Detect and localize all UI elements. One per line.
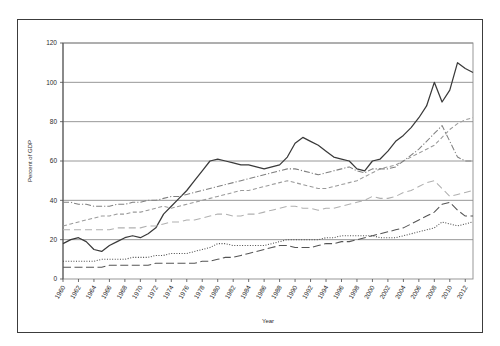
x-axis-tick-label: 1968 bbox=[115, 284, 128, 300]
x-axis-tick-label: 1962 bbox=[69, 284, 82, 300]
x-axis-tick-label: 1984 bbox=[239, 284, 252, 300]
x-axis-tick-label: 1978 bbox=[192, 284, 205, 300]
y-axis-tick-label: 100 bbox=[46, 79, 57, 86]
x-axis-tick-label: 1996 bbox=[332, 284, 345, 300]
y-axis-tick-label: 40 bbox=[50, 197, 58, 204]
chart-figure: 020406080100120Percent of GDP19601962196… bbox=[0, 0, 500, 346]
y-axis-tick-label: 60 bbox=[50, 157, 58, 164]
x-axis-tick-label: 1998 bbox=[347, 284, 360, 300]
y-axis-title: Percent of GDP bbox=[27, 140, 33, 182]
x-axis-tick-label: 2006 bbox=[409, 284, 422, 300]
x-axis-tick-label: 1970 bbox=[130, 284, 143, 300]
x-axis-tick-label: 2000 bbox=[363, 284, 376, 300]
x-axis-tick-label: 1960 bbox=[53, 284, 66, 300]
x-axis-tick-label: 2010 bbox=[440, 284, 453, 300]
x-axis-tick-label: 1964 bbox=[84, 284, 97, 300]
line-chart: 020406080100120Percent of GDP19601962196… bbox=[18, 20, 484, 334]
x-axis-tick-label: 1966 bbox=[99, 284, 112, 300]
x-axis-tick-label: 1972 bbox=[146, 284, 159, 300]
x-axis-tick-label: 2008 bbox=[424, 284, 437, 300]
x-axis-tick-label: 1982 bbox=[223, 284, 236, 300]
y-axis-tick-label: 0 bbox=[53, 275, 57, 282]
x-axis-tick-label: 1974 bbox=[161, 284, 174, 300]
x-axis-tick-label: 1986 bbox=[254, 284, 267, 300]
y-axis-tick-label: 80 bbox=[50, 118, 58, 125]
chart-plot-area: 020406080100120Percent of GDP19601962196… bbox=[18, 20, 484, 334]
x-axis-tick-label: 2002 bbox=[378, 284, 391, 300]
x-axis-tick-label: 1980 bbox=[208, 284, 221, 300]
x-axis-tick-label: 1992 bbox=[301, 284, 314, 300]
x-axis-title: Year bbox=[262, 318, 274, 324]
x-axis-tick-label: 2012 bbox=[455, 284, 468, 300]
y-axis-tick-label: 20 bbox=[50, 236, 58, 243]
x-axis-tick-label: 1994 bbox=[316, 284, 329, 300]
x-axis-tick-label: 1976 bbox=[177, 284, 190, 300]
x-axis-tick-label: 2004 bbox=[393, 284, 406, 300]
x-axis-tick-label: 1988 bbox=[270, 284, 283, 300]
x-axis-tick-label: 1990 bbox=[285, 284, 298, 300]
chart-frame: 020406080100120Percent of GDP19601962196… bbox=[17, 19, 483, 333]
y-axis-tick-label: 120 bbox=[46, 39, 57, 46]
